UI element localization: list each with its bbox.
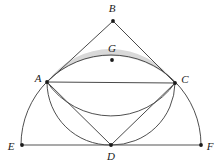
vertex-label-a: A [34,72,42,84]
vertex-labels-group: ABCDEFG [7,2,214,162]
vertex-label-g: G [108,42,116,54]
segment-ad [47,82,111,145]
segment-cd [111,83,175,145]
outer-semicircle-arc [21,55,201,145]
vertex-label-b: B [109,2,116,14]
shaded-region-lune-abc [47,49,175,83]
vertex-label-f: F [206,140,214,152]
vertex-dot-f [199,143,203,147]
vertex-label-d: D [106,150,115,162]
vertex-dot-g [110,58,114,62]
vertex-dot-c [173,81,177,85]
inner-circle-upper-arc [47,82,175,116]
geometry-figure: ABCDEFG [0,0,222,166]
geometry-canvas: ABCDEFG [0,0,222,166]
vertex-dot-d [109,143,113,147]
vertex-dot-b [111,19,115,23]
vertex-label-e: E [7,140,15,152]
vertex-dot-a [45,80,49,84]
vertex-dot-e [20,143,24,147]
segment-ac [47,82,175,83]
vertex-label-c: C [181,73,189,85]
